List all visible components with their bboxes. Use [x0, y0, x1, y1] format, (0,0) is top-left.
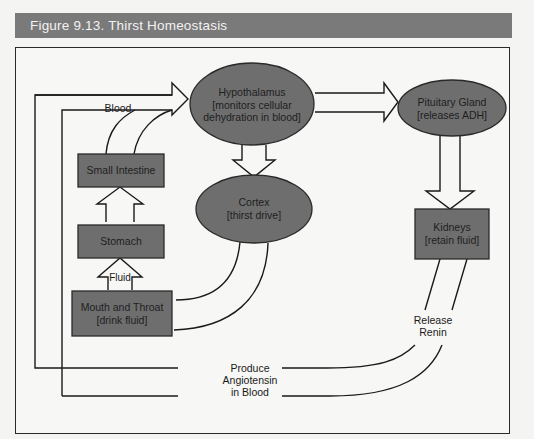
hypothalamus-label: Hypothalamus [monitors cellular dehydrat…	[192, 86, 312, 124]
mouth-throat-label: Mouth and Throat [drink fluid]	[72, 301, 172, 326]
hypothalamus-desc-1: [monitors cellular	[192, 99, 312, 112]
mouth-throat-desc: [drink fluid]	[72, 314, 172, 327]
kidneys-title: Kidneys	[415, 221, 489, 234]
cortex-mouth-curve-1	[176, 242, 240, 300]
angiotensin-label: Produce Angiotensin in Blood	[218, 362, 282, 398]
release-renin-label: Release Renin	[408, 314, 458, 338]
fluid-label: Fluid	[109, 272, 131, 284]
hypothalamus-pituitary-arrow	[315, 83, 398, 121]
hypothalamus-desc-2: dehydration in blood]	[192, 111, 312, 124]
cortex-desc: [thirst drive]	[204, 209, 304, 222]
pituitary-label: Pituitary Gland [releases ADH]	[400, 96, 504, 121]
intestine-blood-curve-1	[106, 110, 135, 154]
intestine-blood-curve-2	[134, 110, 172, 154]
angiotensin-line3: in Blood	[218, 386, 282, 398]
hypothalamus-title: Hypothalamus	[192, 86, 312, 99]
kidneys-renin-line-1	[425, 259, 440, 310]
pituitary-desc: [releases ADH]	[400, 109, 504, 122]
cortex-title: Cortex	[204, 196, 304, 209]
cortex-label: Cortex [thirst drive]	[204, 196, 304, 221]
pituitary-kidneys-arrow	[426, 133, 474, 209]
kidneys-desc: [retain fluid]	[415, 234, 489, 247]
stomach-title: Stomach	[78, 235, 164, 248]
kidneys-label: Kidneys [retain fluid]	[415, 221, 489, 246]
renin-angiotensin-curve-2	[278, 345, 442, 396]
release-renin-line2: Renin	[408, 326, 458, 338]
kidneys-renin-line-2	[452, 259, 467, 310]
small-intestine-title: Small Intestine	[78, 164, 164, 177]
mouth-throat-title: Mouth and Throat	[72, 301, 172, 314]
angiotensin-line2: Angiotensin	[218, 374, 282, 386]
renin-angiotensin-curve-1	[278, 345, 415, 368]
angiotensin-line1: Produce	[218, 362, 282, 374]
blood-label: Blood	[96, 102, 140, 114]
pituitary-title: Pituitary Gland	[400, 96, 504, 109]
hypothalamus-cortex-arrow	[233, 145, 275, 177]
release-renin-line1: Release	[408, 314, 458, 326]
stomach-label: Stomach	[78, 235, 164, 248]
stomach-intestine-arrow	[97, 187, 143, 222]
small-intestine-label: Small Intestine	[78, 164, 164, 177]
